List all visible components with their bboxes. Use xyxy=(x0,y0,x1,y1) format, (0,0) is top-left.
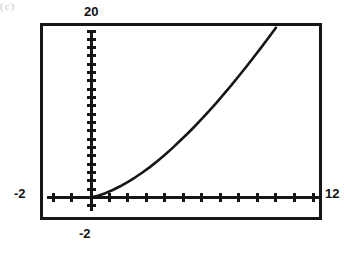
x-axis-tick xyxy=(219,193,222,202)
y-axis-tick xyxy=(87,54,96,57)
x-axis-tick xyxy=(237,193,240,202)
y-axis-tick xyxy=(87,154,96,157)
x-axis-tick xyxy=(163,193,166,202)
x-axis-tick xyxy=(126,193,129,202)
x-axis-tick xyxy=(293,193,296,202)
y-axis-tick xyxy=(87,46,96,49)
x-min-label: -2 xyxy=(79,226,91,241)
y-axis-tick xyxy=(87,38,96,41)
y-axis-tick xyxy=(87,79,96,82)
y-axis-tick xyxy=(87,179,96,182)
x-axis-tick xyxy=(256,193,259,202)
y-min-label: -2 xyxy=(14,186,26,201)
x-axis-tick xyxy=(52,193,55,202)
x-axis-tick xyxy=(274,193,277,202)
y-axis-tick xyxy=(87,163,96,166)
x-axis-tick xyxy=(200,193,203,202)
x-axis-tick xyxy=(182,193,185,202)
y-axis-tick xyxy=(87,104,96,107)
screenshot-canvas: (c) 20 -2 -2 12 xyxy=(0,0,344,254)
corner-artifact-mark: (c) xyxy=(0,0,15,12)
y-axis-tick xyxy=(87,138,96,141)
x-axis-tick xyxy=(145,193,148,202)
y-axis-tick xyxy=(87,96,96,99)
x-max-label: 12 xyxy=(325,186,339,201)
x-axis-tick xyxy=(108,193,111,202)
x-axis-tick xyxy=(312,193,315,202)
y-axis-tick xyxy=(87,204,96,207)
y-axis-tick xyxy=(87,71,96,74)
y-axis-tick xyxy=(87,63,96,66)
graph-viewport-frame: 20 xyxy=(40,23,322,220)
y-axis-tick xyxy=(87,121,96,124)
y-axis-tick xyxy=(87,146,96,149)
y-axis-tick xyxy=(87,88,96,91)
y-axis-tick xyxy=(87,171,96,174)
y-axis-tick xyxy=(87,129,96,132)
curve-plot xyxy=(43,26,319,217)
y-axis-tick xyxy=(87,188,96,191)
y-axis-tick xyxy=(87,113,96,116)
x-axis-tick xyxy=(70,193,73,202)
y-max-label: 20 xyxy=(84,4,98,19)
y-axis-tick xyxy=(87,30,96,33)
